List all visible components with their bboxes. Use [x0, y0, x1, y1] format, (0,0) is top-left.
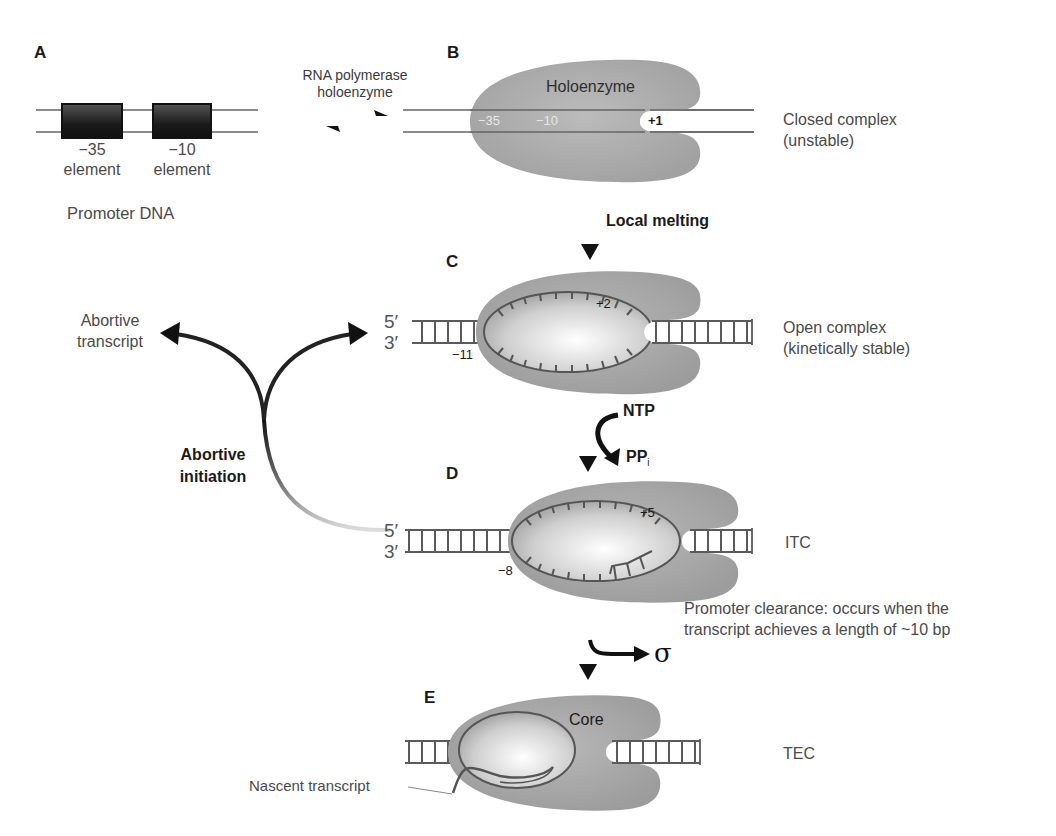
promoter-dna-caption: Promoter DNA — [67, 203, 174, 224]
rna-polymerase-label: RNA polymerase holoenzyme — [290, 67, 420, 101]
minus10-element-box — [153, 104, 211, 138]
initial-transcribing-complex — [405, 481, 802, 602]
abortive-initiation-line1: Abortive — [168, 444, 258, 466]
ppi-subscript: i — [647, 457, 649, 468]
arrow-ntp-incorporation-icon — [579, 398, 620, 472]
minus10-element-label: −10 element — [148, 140, 216, 180]
core-enzyme-label: Core — [569, 711, 604, 729]
open-complex-line2: (kinetically stable) — [783, 338, 910, 359]
panel-a-letter: A — [34, 43, 46, 63]
ppi-text: PP — [626, 448, 647, 465]
sigma-factor-label: σ — [654, 638, 672, 668]
open-complex — [412, 271, 764, 394]
transcription-elongation-complex — [405, 695, 706, 810]
abortive-initiation-line2: initiation — [168, 466, 258, 488]
c-plus2-position: +2 — [596, 296, 611, 311]
abortive-transcript-line2: transcript — [60, 331, 160, 352]
tec-label: TEC — [783, 743, 815, 764]
c-five-prime: 5′ — [384, 312, 398, 331]
panel-b-letter: B — [447, 43, 459, 63]
minus35-element-label: −35 element — [58, 140, 126, 180]
abortive-transcript-label: Abortive transcript — [60, 310, 160, 352]
local-melting-label: Local melting — [606, 210, 709, 232]
open-complex-line1: Open complex — [783, 317, 910, 338]
rna-polymerase-line1: RNA polymerase — [290, 67, 420, 84]
c-minus11-position: −11 — [452, 347, 473, 362]
itc-label: ITC — [785, 532, 811, 553]
d-five-prime: 5′ — [384, 521, 398, 540]
minus35-word: element — [58, 160, 126, 180]
nascent-transcript-label: Nascent transcript — [249, 775, 370, 796]
minus35-position: −35 — [478, 113, 500, 128]
promoter-dna — [36, 104, 258, 138]
ppi-label: PPi — [626, 446, 650, 474]
rna-polymerase-line2: holoenzyme — [290, 84, 420, 101]
d-minus8-position: −8 — [498, 563, 513, 578]
panel-e-letter: E — [424, 688, 435, 708]
minus10-position: −10 — [536, 113, 558, 128]
panel-d-letter: D — [446, 464, 458, 484]
panel-c-letter: C — [446, 252, 458, 272]
minus35-element-box — [62, 104, 122, 138]
promoter-clearance-label: Promoter clearance: occurs when the tran… — [684, 598, 950, 640]
abortive-initiation-arrow-icon — [160, 322, 390, 530]
arrow-promoter-clearance-icon — [579, 612, 650, 680]
c-three-prime: 3′ — [384, 333, 398, 352]
open-complex-label: Open complex (kinetically stable) — [783, 317, 910, 359]
closed-complex-line1: Closed complex — [783, 109, 897, 130]
equilibrium-arrows-icon — [326, 110, 388, 132]
minus10-number: −10 — [148, 140, 216, 160]
holoenzyme-label: Holoenzyme — [546, 78, 635, 96]
ntp-label: NTP — [623, 400, 655, 422]
promoter-clearance-line1: Promoter clearance: occurs when the — [684, 598, 950, 619]
diagram-artwork — [0, 0, 1056, 836]
arrow-local-melting-icon — [581, 190, 599, 260]
minus10-word: element — [148, 160, 216, 180]
d-plus5-position: +5 — [640, 505, 655, 520]
d-three-prime: 3′ — [384, 542, 398, 561]
abortive-transcript-line1: Abortive — [60, 310, 160, 331]
abortive-initiation-label: Abortive initiation — [168, 444, 258, 488]
promoter-clearance-line2: transcript achieves a length of ~10 bp — [684, 619, 950, 640]
closed-complex-line2: (unstable) — [783, 130, 897, 151]
closed-complex-label: Closed complex (unstable) — [783, 109, 897, 151]
minus35-number: −35 — [58, 140, 126, 160]
plus1-position: +1 — [648, 113, 663, 128]
